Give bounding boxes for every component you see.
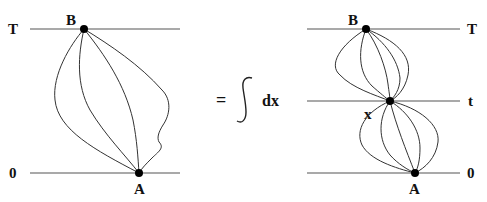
label-B-right: B — [348, 12, 358, 28]
path-integral-diagram: T 0 B A = dx T t 0 B x A — [0, 0, 487, 202]
left-diagram: T 0 B A — [8, 12, 180, 197]
label-T-right: T — [467, 21, 477, 37]
path-2-left — [79, 29, 139, 173]
point-A-right — [411, 169, 419, 177]
lower-path-2 — [381, 101, 415, 173]
point-A-left — [135, 169, 143, 177]
label-t-right: t — [468, 93, 473, 109]
label-B-left: B — [66, 12, 76, 28]
label-0-right: 0 — [467, 165, 475, 181]
integral-icon — [237, 77, 252, 122]
point-B-right — [362, 25, 370, 33]
point-x-right — [386, 97, 394, 105]
label-T-left: T — [8, 21, 18, 37]
lower-path-5 — [390, 101, 420, 173]
path-4-wavy-left — [84, 29, 169, 173]
right-diagram: T t 0 B x A — [307, 12, 477, 197]
upper-path-2 — [361, 29, 390, 101]
path-3-left — [84, 29, 139, 173]
label-A-left: A — [134, 181, 145, 197]
upper-path-3 — [366, 29, 390, 101]
upper-path-5 — [366, 29, 400, 101]
equals-sign: = — [216, 90, 226, 110]
label-A-right: A — [409, 181, 420, 197]
label-0-left: 0 — [9, 165, 17, 181]
upper-path-4 — [366, 29, 409, 101]
integrand-dx: dx — [262, 92, 279, 109]
path-1-left — [55, 29, 139, 173]
equation: = dx — [216, 77, 279, 122]
point-B-left — [80, 25, 88, 33]
lower-path-3 — [390, 101, 415, 173]
